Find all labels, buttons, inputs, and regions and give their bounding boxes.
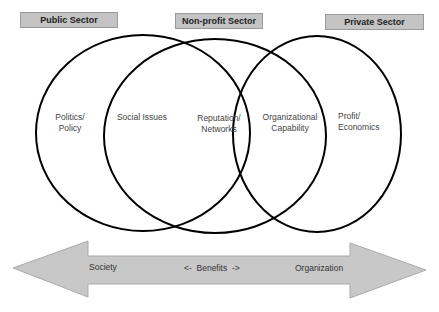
arrow-label-organization: Organization bbox=[295, 263, 343, 273]
region-line: Social Issues bbox=[112, 112, 172, 123]
region-politics-policy: Politics/ Policy bbox=[48, 112, 92, 134]
arrow-label-society: Society bbox=[89, 262, 117, 272]
region-line: Profit/ bbox=[338, 111, 388, 122]
region-social-issues: Social Issues bbox=[112, 112, 172, 123]
region-line: Networks bbox=[188, 124, 250, 135]
region-line: Politics/ bbox=[48, 112, 92, 123]
region-line: Reputation/ bbox=[188, 113, 250, 124]
region-line: Capability bbox=[258, 123, 322, 134]
arrow-label-benefits: <- Benefits -> bbox=[184, 263, 240, 273]
private-sector-circle bbox=[233, 36, 401, 232]
region-line: Policy bbox=[48, 123, 92, 134]
nonprofit-sector-circle bbox=[104, 39, 326, 233]
region-line: Economics bbox=[338, 122, 388, 133]
region-line: Organizational bbox=[258, 112, 322, 123]
region-reputation-networks: Reputation/ Networks bbox=[188, 113, 250, 135]
region-organizational-capability: Organizational Capability bbox=[258, 112, 322, 134]
region-profit-economics: Profit/ Economics bbox=[338, 111, 388, 133]
